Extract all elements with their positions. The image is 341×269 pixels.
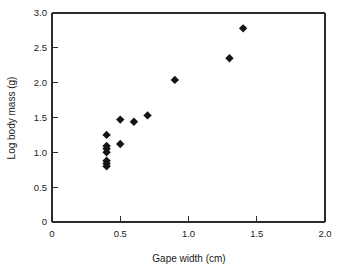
- y-tick-label-4: 2.0: [34, 77, 47, 88]
- data-point: [116, 115, 124, 123]
- y-tick-label-2: 1.0: [34, 147, 47, 158]
- data-point: [143, 111, 151, 119]
- axes-group: [52, 13, 325, 222]
- data-point: [116, 140, 124, 148]
- data-point: [225, 54, 233, 62]
- x-tick-label-2: 1.0: [182, 228, 195, 239]
- y-tick-label-3: 1.5: [34, 112, 47, 123]
- x-tick-label-1: 0.5: [114, 228, 127, 239]
- data-point: [239, 24, 247, 32]
- y-tick-label-5: 2.5: [34, 42, 47, 53]
- data-point: [102, 131, 110, 139]
- tick-labels-group: 00.51.01.52.02.53.000.51.01.52.0: [34, 7, 332, 239]
- y-tick-label-6: 3.0: [34, 7, 47, 18]
- x-tick-label-0: 0: [49, 228, 54, 239]
- scatter-plot-figure: 00.51.01.52.02.53.000.51.01.52.0 Gape wi…: [0, 0, 341, 269]
- data-point: [171, 76, 179, 84]
- x-axis-title: Gape width (cm): [152, 253, 225, 264]
- y-tick-label-1: 0.5: [34, 182, 47, 193]
- chart-canvas: 00.51.01.52.02.53.000.51.01.52.0 Gape wi…: [0, 0, 341, 269]
- x-tick-label-3: 1.5: [250, 228, 263, 239]
- y-tick-label-0: 0: [42, 216, 47, 227]
- data-markers-group: [102, 24, 247, 170]
- ticks-group: [52, 13, 325, 222]
- data-point: [130, 117, 138, 125]
- x-tick-label-4: 2.0: [318, 228, 331, 239]
- y-axis-title: Log body mass (g): [6, 77, 17, 160]
